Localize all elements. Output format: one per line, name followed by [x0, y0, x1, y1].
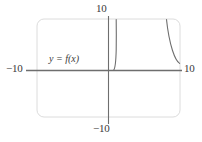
graph-figure: 10 −10 −10 10 y = f(x) [0, 0, 202, 142]
axis-label-bottom: −10 [93, 123, 110, 134]
plot-canvas [0, 0, 202, 142]
function-label: y = f(x) [49, 54, 79, 64]
axis-label-left: −10 [6, 63, 23, 74]
axis-label-top: 10 [96, 3, 107, 14]
axis-label-right: 10 [184, 63, 195, 74]
